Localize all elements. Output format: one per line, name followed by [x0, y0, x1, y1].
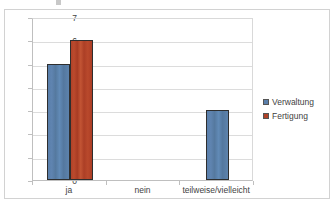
legend-swatch-icon [263, 99, 269, 105]
chart-frame: 01234567 janeinteilweise/vielleicht Verw… [4, 9, 330, 199]
bar-verwaltung-ja [47, 64, 70, 180]
gridline [33, 42, 252, 43]
x-axis-tick-mark [179, 181, 180, 185]
bar-verwaltung-teilweise-vielleicht [206, 110, 229, 180]
x-axis-tick-mark [253, 181, 254, 185]
x-axis-category-label: teilweise/vielleicht [156, 186, 276, 195]
plot-area [32, 18, 253, 181]
legend-item-verwaltung[interactable]: Verwaltung [263, 96, 329, 108]
legend-item-label: Fertigung [272, 112, 308, 121]
scan-artifact [56, 0, 61, 5]
bar-fertigung-ja [70, 40, 93, 180]
legend-item-fertigung[interactable]: Fertigung [263, 110, 329, 122]
legend-item-label: Verwaltung [272, 98, 314, 107]
chart-legend: VerwaltungFertigung [263, 96, 329, 124]
x-axis-tick-mark [106, 181, 107, 185]
x-axis-tick-mark [32, 181, 33, 185]
legend-swatch-icon [263, 113, 269, 119]
